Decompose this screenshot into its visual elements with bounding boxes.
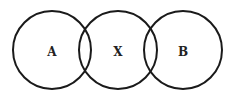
label-b: B — [178, 45, 188, 59]
venn-diagram: A X B — [0, 0, 234, 96]
label-x: X — [113, 45, 123, 59]
label-a: A — [46, 45, 57, 59]
